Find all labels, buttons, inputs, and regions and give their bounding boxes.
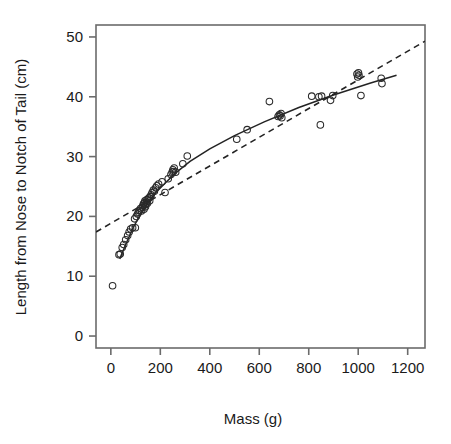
y-tick-label: 40 <box>66 88 83 105</box>
y-axis-title: Length from Nose to Notch of Tail (cm) <box>12 59 29 316</box>
figure-container: 020040060080010001200 01020304050 Mass (… <box>0 0 451 444</box>
x-tick-label: 1000 <box>342 359 375 376</box>
y-tick-label: 0 <box>75 327 83 344</box>
y-axis-ticks: 01020304050 <box>66 28 96 344</box>
data-point <box>109 282 116 289</box>
x-tick-label: 400 <box>197 359 222 376</box>
y-tick-label: 20 <box>66 207 83 224</box>
fit-lines <box>96 41 425 259</box>
nonlinear-fit <box>120 75 397 259</box>
x-axis-title: Mass (g) <box>224 410 282 427</box>
data-point <box>317 122 324 129</box>
x-axis-ticks: 020040060080010001200 <box>107 348 425 376</box>
x-tick-label: 600 <box>247 359 272 376</box>
y-tick-label: 50 <box>66 28 83 45</box>
data-point <box>180 160 187 167</box>
data-point <box>358 92 365 99</box>
x-tick-label: 0 <box>107 359 115 376</box>
data-point <box>184 153 191 160</box>
scatter-plot: 020040060080010001200 01020304050 Mass (… <box>0 0 451 444</box>
data-point <box>233 136 240 143</box>
data-points <box>109 70 385 290</box>
y-tick-label: 10 <box>66 267 83 284</box>
x-tick-label: 200 <box>148 359 173 376</box>
x-tick-label: 1200 <box>391 359 424 376</box>
x-tick-label: 800 <box>296 359 321 376</box>
plot-frame <box>96 25 425 348</box>
data-point <box>266 98 273 105</box>
data-point <box>308 93 315 100</box>
y-tick-label: 30 <box>66 148 83 165</box>
